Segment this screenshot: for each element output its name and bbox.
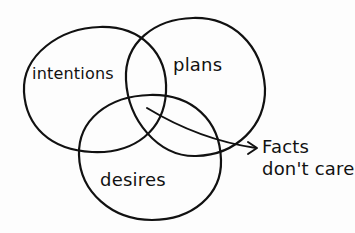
venn-drawing xyxy=(0,0,355,233)
callout-line-1: Facts xyxy=(262,136,355,158)
label-desires: desires xyxy=(100,171,166,189)
callout-line-2: don't care xyxy=(262,158,355,180)
circle-desires xyxy=(79,95,221,220)
callout-text: Facts don't care xyxy=(262,136,355,180)
label-plans: plans xyxy=(173,56,222,74)
label-intentions: intentions xyxy=(32,66,114,82)
circle-intentions xyxy=(24,27,166,152)
venn-diagram: intentions plans desires Facts don't car… xyxy=(0,0,355,233)
